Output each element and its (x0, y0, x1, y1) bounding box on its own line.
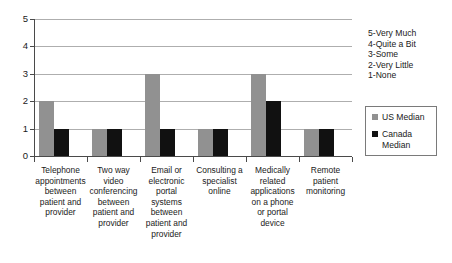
bar (198, 129, 213, 156)
bar-group (193, 19, 246, 156)
bar-groups (34, 19, 352, 156)
scale-legend-item: 3-Some (368, 49, 416, 60)
grouped-bar-chart: 5 4 3 2 1 0 Telephone appointments betwe… (0, 0, 452, 263)
y-tick-label-2: 2 (12, 96, 28, 106)
series-legend: US Median Canada Median (365, 106, 437, 156)
category-label: Medically related applications on a phon… (246, 165, 299, 255)
bar (107, 129, 122, 156)
x-tick-mark (193, 157, 194, 162)
legend-swatch-us-median (372, 114, 378, 120)
category-label: Two way video conferencing between patie… (87, 165, 140, 255)
legend-label-us-median: US Median (382, 112, 425, 122)
caption-strip (14, 259, 414, 261)
bar-group (34, 19, 87, 156)
x-tick-mark (246, 157, 247, 162)
legend-label-canada-median: Canada Median (382, 129, 431, 150)
bar (251, 74, 266, 156)
x-tick-mark (34, 157, 35, 162)
bar (54, 129, 69, 156)
y-tick-label-0: 0 (12, 151, 28, 161)
bar-group (140, 19, 193, 156)
category-label: Telephone appointments between patient a… (34, 165, 87, 255)
y-tick-label-1: 1 (12, 124, 28, 134)
x-tick-mark (299, 157, 300, 162)
scale-legend: 5-Very Much4-Quite a Bit3-Some2-Very Lit… (368, 28, 416, 81)
scale-legend-item: 1-None (368, 70, 416, 81)
bar (304, 129, 319, 156)
bar (266, 101, 281, 156)
legend-swatch-canada-median (372, 131, 378, 137)
category-label: Consulting a specialist online (193, 165, 246, 255)
x-tick-mark (87, 157, 88, 162)
bar-group (299, 19, 352, 156)
bar (319, 129, 334, 156)
bar-group (246, 19, 299, 156)
bar (160, 129, 175, 156)
category-label: Remote patient monitoring (299, 165, 352, 255)
y-tick-label-4: 4 (12, 41, 28, 51)
category-label: Email or electronic portal systems betwe… (140, 165, 193, 255)
legend-item-canada-median: Canada Median (372, 129, 431, 150)
bar (213, 129, 228, 156)
scale-legend-item: 2-Very Little (368, 60, 416, 71)
scale-legend-item: 5-Very Much (368, 28, 416, 39)
x-axis-category-labels: Telephone appointments between patient a… (34, 165, 352, 255)
bar (145, 74, 160, 156)
y-tick-label-5: 5 (12, 14, 28, 24)
bar (39, 101, 54, 156)
y-tick-label-3: 3 (12, 69, 28, 79)
scale-legend-item: 4-Quite a Bit (368, 39, 416, 50)
bar (92, 129, 107, 156)
x-tick-marks (34, 157, 352, 162)
x-tick-mark (352, 157, 353, 162)
legend-item-us-median: US Median (372, 112, 431, 122)
x-tick-mark (140, 157, 141, 162)
bar-group (87, 19, 140, 156)
